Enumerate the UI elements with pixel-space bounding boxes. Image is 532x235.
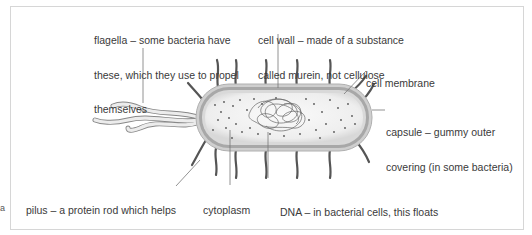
label-dna: DNA – in bacterial cells, this floats lo…	[280, 184, 438, 235]
label-pilus: pilus – a protein rod which helps cells …	[26, 182, 176, 235]
label-line: these, which they use to propel	[94, 70, 239, 82]
label-line: covering (in some bacteria)	[386, 162, 513, 174]
label-line: DNA – in bacterial cells, this floats	[280, 207, 438, 219]
label-line: cell membrane	[366, 78, 435, 90]
label-line: cytoplasm	[203, 205, 250, 217]
label-line: cell wall – made of a substance	[258, 35, 404, 47]
label-line: themselves	[94, 104, 239, 116]
label-line: pilus – a protein rod which helps	[26, 205, 176, 217]
label-capsule: capsule – gummy outer covering (in some …	[386, 104, 513, 185]
label-cell-membrane: cell membrane	[366, 55, 435, 101]
label-cytoplasm: cytoplasm	[203, 182, 250, 228]
label-flagella: flagella – some bacteria have these, whi…	[94, 12, 239, 127]
label-line: flagella – some bacteria have	[94, 35, 239, 47]
label-line: capsule – gummy outer	[386, 127, 513, 139]
